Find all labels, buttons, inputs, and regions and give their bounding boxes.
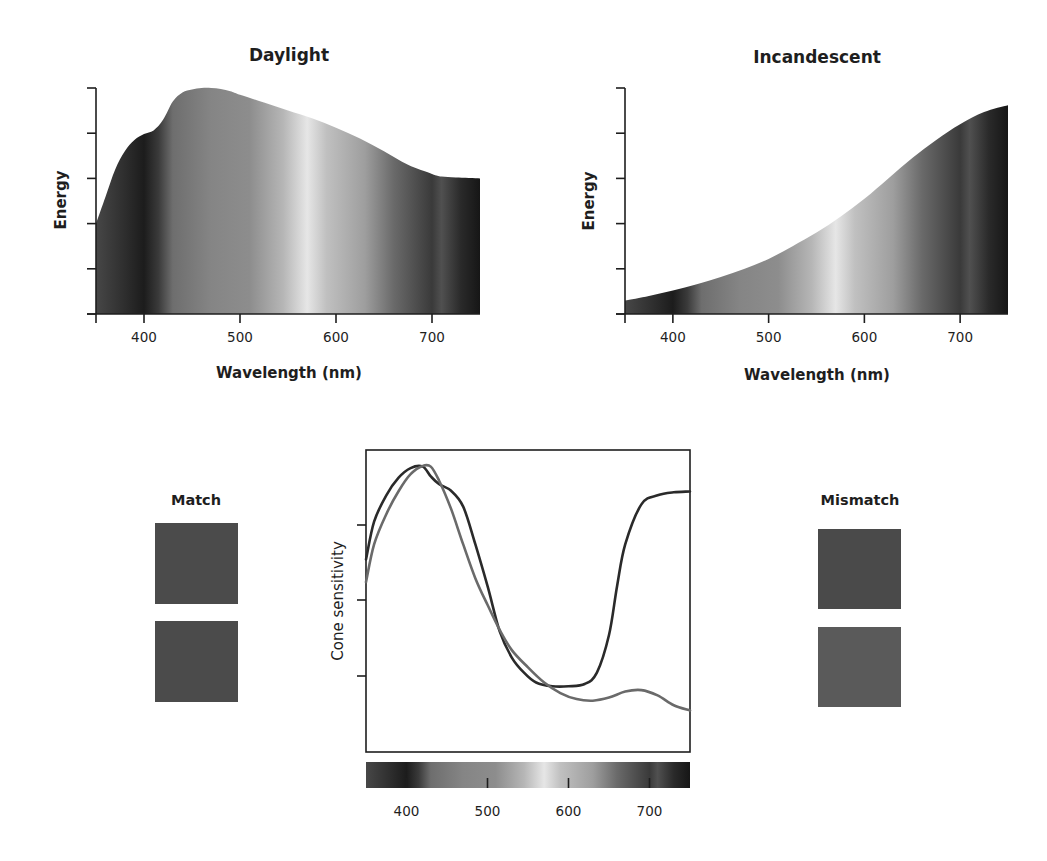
daylight-chart: Daylight 400500600700 Energy Wavelength … (52, 45, 480, 382)
incandescent-energy-area (625, 105, 1008, 314)
x-tick-label: 400 (131, 329, 157, 345)
x-tick-label: 500 (756, 329, 782, 345)
x-tick-label: 600 (323, 329, 349, 345)
x-axis: 400500600700 (87, 314, 480, 345)
gray-cone-curve (366, 465, 690, 711)
x-tick-label: 600 (556, 803, 582, 819)
mismatch-swatch-bottom (818, 627, 901, 707)
y-axis (87, 88, 96, 314)
chart-title: Daylight (249, 45, 329, 65)
y-axis (616, 88, 625, 314)
x-tick-label: 500 (475, 803, 501, 819)
dark-cone-curve (366, 466, 690, 687)
mismatch-swatch-top (818, 529, 901, 609)
wavelength-colorbar (366, 762, 690, 788)
x-axis-label: Wavelength (nm) (744, 366, 890, 384)
x-tick-label: 700 (947, 329, 973, 345)
plot-frame (366, 450, 690, 752)
match-swatch-top (155, 523, 238, 604)
x-axis: 400500600700 (616, 314, 1008, 345)
mismatch-panel: Mismatch (818, 492, 901, 707)
mismatch-label: Mismatch (821, 492, 900, 508)
y-axis-label: Energy (580, 171, 598, 230)
x-tick-label: 700 (637, 803, 663, 819)
x-tick-label: 400 (660, 329, 686, 345)
x-tick-label: 500 (227, 329, 253, 345)
match-panel: Match (155, 492, 238, 702)
x-axis-label: Wavelength (nm) (216, 364, 362, 382)
x-tick-label: 700 (419, 329, 445, 345)
x-tick-label: 600 (851, 329, 877, 345)
incandescent-chart: Incandescent 400500600700 Energy Wavelen… (580, 47, 1008, 384)
daylight-energy-area (96, 88, 480, 314)
y-axis-label: Cone sensitivity (329, 541, 347, 661)
figure: Daylight 400500600700 Energy Wavelength … (0, 0, 1047, 861)
y-axis (357, 525, 366, 676)
y-axis-label: Energy (52, 170, 70, 229)
chart-title: Incandescent (753, 47, 881, 67)
match-swatch-bottom (155, 621, 238, 702)
match-label: Match (171, 492, 221, 508)
cone-sensitivity-chart: Cone sensitivity 400500600700 (329, 450, 690, 819)
x-tick-label: 400 (394, 803, 420, 819)
